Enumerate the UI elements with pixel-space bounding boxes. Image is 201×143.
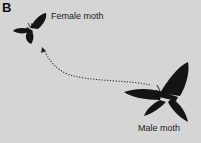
male-moth-label: Male moth (138, 123, 180, 133)
female-moth-icon (13, 13, 46, 44)
dotted-arrow (41, 47, 150, 85)
female-moth-label: Female moth (51, 11, 104, 21)
male-moth-icon (124, 62, 189, 122)
diagram-canvas (0, 0, 201, 143)
